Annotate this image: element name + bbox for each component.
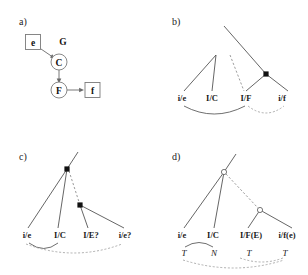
panel-d-leaf-1: I/C [207,230,219,240]
panel-c-internal-node-1[interactable] [77,202,82,207]
graph-node-e-label: e [31,38,35,48]
panel-c-leaf-1: I/C [54,230,66,240]
panel-d-tree [184,154,292,228]
arrowhead-f-fsmall [79,88,84,93]
panel-d-cat-0: T [181,248,187,258]
graph-node-e[interactable]: e [26,35,41,50]
panel-b: b) i/e I/C I/F i/f [172,16,288,114]
panel-a: a) e G C F [19,16,100,98]
panel-b-tree [184,26,288,91]
panel-d-cat-2: T [246,248,252,258]
panel-c-leaf-3: i/e? [119,230,132,240]
panel-d-leaf-0: i/e [178,230,187,240]
panel-d-link-dashed [183,260,284,268]
panel-d-internal-node-1[interactable] [257,207,262,212]
figure-root: a) e G C F [0,0,308,275]
panel-b-internal-node[interactable] [263,71,268,76]
panel-b-label: b) [172,16,180,28]
panel-c-tree [28,152,124,228]
panel-c-label: c) [19,151,27,163]
panel-c-leaf-0: i/e [23,230,32,240]
panel-b-leaf-3: i/f [278,93,286,103]
graph-node-c[interactable]: C [51,54,67,70]
panel-b-link-solid [184,106,245,114]
panel-c-internal-node-0[interactable] [64,166,69,171]
graph-node-fsmall[interactable]: f [85,83,100,98]
panel-c: c) i/e I/C I/E? i/e? [19,151,131,253]
graph-node-f-label: F [56,86,62,96]
panel-d-link-solid [185,243,213,248]
graph-node-c-label: C [56,58,63,68]
panel-d-label: d) [172,151,180,163]
edge-f-to-fsmall [67,88,84,93]
panel-d-internal-node-0[interactable] [221,169,226,174]
graph-label-g: G [59,37,67,47]
panel-d-cat-1: N [210,248,218,258]
panel-d-cat-3: T [282,248,288,258]
panel-b-leaf-2: I/F [241,93,252,103]
panel-d-link-dashed-2 [240,258,283,262]
panel-b-leaf-0: i/e [178,93,187,103]
panel-c-link-solid [29,243,58,249]
panel-d: d) i/e I/C I/F(E) i/f(e) T N T T [172,151,296,268]
panel-d-leaf-3: i/f(e) [279,230,296,240]
panel-b-leaf-1: I/C [206,93,218,103]
graph-node-f[interactable]: F [51,82,67,98]
edge-c-to-f [57,70,62,84]
panel-a-label: a) [19,16,27,28]
panel-d-leaf-2: I/F(E) [240,230,262,240]
panel-c-leaf-2: I/E? [83,230,99,240]
panel-b-link-dashed [248,106,284,113]
